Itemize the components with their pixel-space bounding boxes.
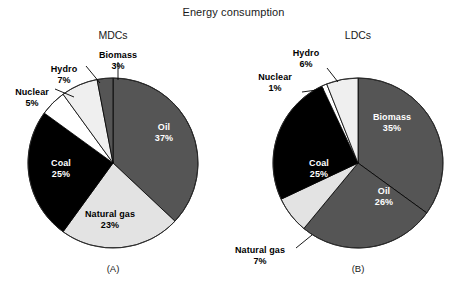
slice-name-hydro-ldcs: Hydro bbox=[293, 48, 320, 58]
slice-label-oil-ldcs: Oil 26% bbox=[362, 186, 406, 208]
leader-line-hydro-ldcs bbox=[327, 68, 338, 82]
slice-name-oil-ldcs: Oil bbox=[378, 186, 390, 196]
slice-pct-coal-ldcs: 25% bbox=[297, 169, 341, 180]
slice-label-hydro-ldcs: Hydro 6% bbox=[285, 48, 327, 70]
slice-label-coal-ldcs: Coal 25% bbox=[297, 158, 341, 180]
slice-label-nuclear-ldcs: Nuclear 1% bbox=[249, 72, 301, 94]
energy-consumption-figure: Energy consumption MDCs LDCs Oil 37% Nat… bbox=[0, 0, 467, 292]
slice-label-biomass-ldcs: Biomass 35% bbox=[357, 112, 427, 134]
slice-name-biomass-ldcs: Biomass bbox=[373, 112, 411, 122]
slice-pct-nuclear-ldcs: 1% bbox=[249, 83, 301, 94]
slice-pct-oil-ldcs: 26% bbox=[362, 197, 406, 208]
slice-pct-natural-gas-ldcs: 7% bbox=[220, 256, 300, 267]
slice-pct-hydro-ldcs: 6% bbox=[285, 59, 327, 70]
slice-pct-biomass-ldcs: 35% bbox=[357, 123, 427, 134]
slice-label-natural-gas-ldcs: Natural gas 7% bbox=[220, 245, 300, 267]
panel-caption-b: (B) bbox=[328, 263, 388, 274]
slice-name-natural-gas-ldcs: Natural gas bbox=[235, 245, 285, 255]
slice-name-coal-ldcs: Coal bbox=[309, 158, 329, 168]
slice-name-nuclear-ldcs: Nuclear bbox=[258, 72, 292, 82]
